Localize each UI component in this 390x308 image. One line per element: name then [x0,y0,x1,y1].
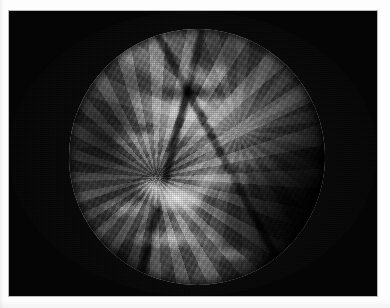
earth-disk [69,29,325,285]
limb-edge-shading [69,29,325,285]
scanned-page [0,0,390,308]
satellite-photo-frame [9,11,377,296]
